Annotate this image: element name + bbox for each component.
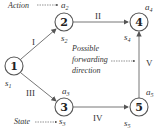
node-5: 5 [130,98,148,116]
direction-annotation-line1: Possible [71,44,100,53]
action-a5: a5 [146,87,154,98]
direction-annotation-line3: direction [72,66,101,75]
state-annotation: State [14,117,30,126]
action-a2: a2 [61,0,69,11]
svg-text:2: 2 [60,16,68,29]
state-s3: s3 [59,116,66,127]
node-4: 4 [130,13,148,31]
action-a3: a3 [62,86,70,97]
state-s2: s2 [61,33,68,44]
svg-text:5: 5 [135,101,143,114]
edge-1-2 [21,29,56,59]
svg-text:3: 3 [60,101,68,114]
edge-label-IV: IV [93,113,103,123]
state-s4: s4 [124,32,131,43]
edge-label-III: III [26,88,35,98]
edge-label-II: II [95,11,101,21]
forwarding-diagram: 1 2 3 4 5 I II III IV V s1 s2 s3 s4 s5 a… [0,0,160,130]
direction-annotation-line2: forwarding [72,55,108,64]
edge-label-I: I [32,37,35,47]
edge-label-V: V [146,58,153,68]
action-a4: a4 [145,2,153,13]
node-1: 1 [5,57,23,75]
action-annotation: Action [7,1,29,10]
node-3: 3 [55,98,73,116]
svg-text:1: 1 [10,60,18,73]
node-2: 2 [55,13,73,31]
state-s1: s1 [5,78,12,89]
svg-text:4: 4 [135,16,143,29]
state-s5: s5 [124,118,131,129]
